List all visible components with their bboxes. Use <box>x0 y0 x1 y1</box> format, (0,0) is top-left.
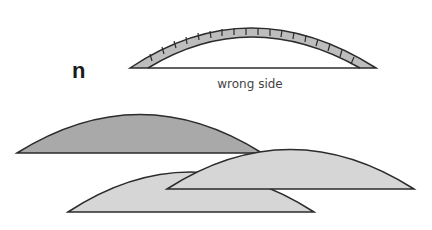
step-label: n <box>72 60 85 82</box>
curved-strip-wrong-side <box>130 28 376 68</box>
light-dome-right <box>167 150 414 190</box>
dark-dome <box>17 115 262 154</box>
caption-wrong-side: wrong side <box>200 77 300 91</box>
diagram-canvas <box>0 0 432 230</box>
